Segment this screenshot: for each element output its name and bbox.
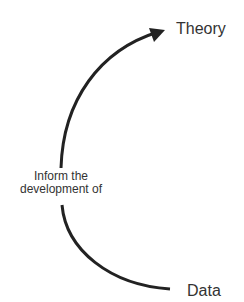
upper-arc-arrow xyxy=(61,32,158,168)
node-theory: Theory xyxy=(176,20,226,38)
lower-arc xyxy=(62,205,170,289)
diagram-canvas: Theory Data Inform the development of xyxy=(0,0,244,302)
arc-arrow-graphic xyxy=(0,0,244,302)
edge-label: Inform the development of xyxy=(0,170,122,196)
edge-label-line2: development of xyxy=(0,183,122,196)
node-data: Data xyxy=(187,282,221,300)
